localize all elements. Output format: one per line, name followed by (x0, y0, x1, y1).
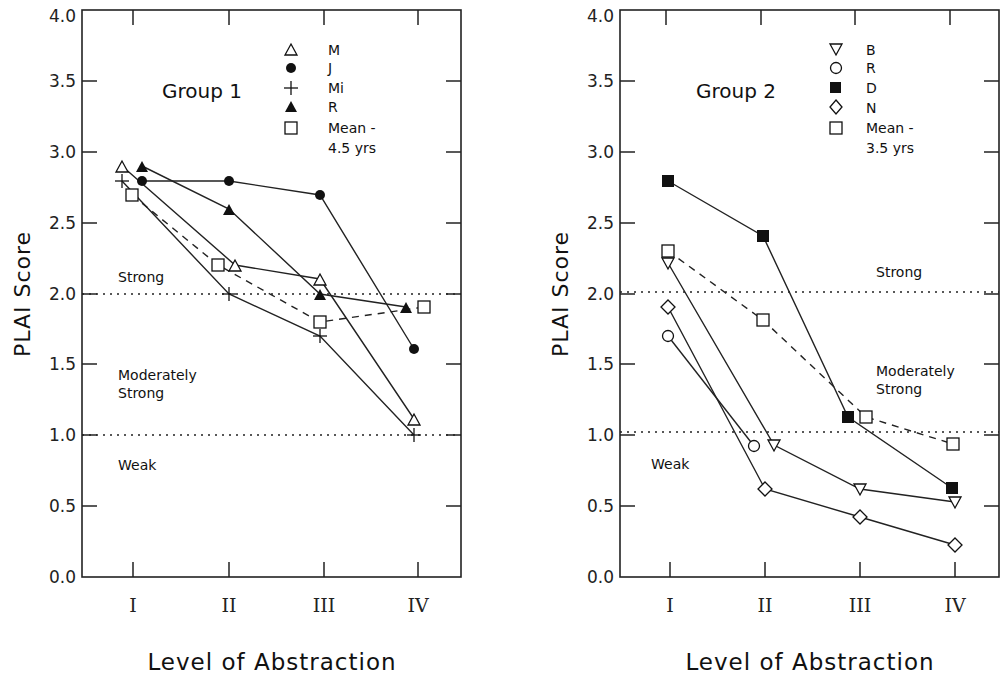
legend-triangle-down-open-icon (830, 44, 842, 55)
series-D-line (668, 181, 952, 488)
svg-text:III: III (313, 594, 336, 616)
y-tick-labels: 0.0 0.5 1.0 1.5 2.0 2.5 3.0 3.5 4.0 (49, 6, 76, 587)
legend-triangle-filled-icon (285, 101, 297, 112)
svg-text:D: D (866, 80, 877, 96)
svg-text:0.5: 0.5 (587, 496, 614, 516)
svg-text:I: I (666, 594, 674, 616)
svg-text:Mi: Mi (328, 80, 344, 96)
svg-text:J: J (327, 60, 332, 76)
y-axis-title: PLAI Score (548, 231, 573, 357)
svg-text:B: B (866, 42, 876, 58)
series-J-line (142, 181, 414, 349)
series-lines (122, 166, 424, 435)
svg-text:3.5 yrs: 3.5 yrs (866, 140, 914, 156)
svg-text:4.0: 4.0 (49, 6, 76, 26)
svg-text:1.5: 1.5 (49, 354, 76, 374)
series-R-line (668, 336, 754, 446)
legend-diamond-open-icon (830, 100, 842, 114)
region-label-strong: Strong (876, 264, 922, 280)
svg-text:R: R (328, 99, 338, 115)
svg-text:1.0: 1.0 (587, 425, 614, 445)
region-label-weak: Weak (651, 456, 690, 472)
region-label-moderate-2: Strong (876, 381, 922, 397)
x-tick-labels: I II III IV (129, 594, 429, 616)
legend-square-open-icon (830, 122, 842, 134)
svg-text:4.5 yrs: 4.5 yrs (328, 140, 376, 156)
x-axis-title: Level of Abstraction (685, 649, 934, 675)
legend: M J Mi R Mean - 4.5 yrs (284, 42, 376, 156)
plot-frame (620, 10, 999, 577)
svg-text:M: M (328, 42, 340, 58)
series-Mi-line (122, 181, 414, 435)
x-tick-labels: I II III IV (666, 594, 966, 616)
legend-plus-icon (284, 81, 298, 95)
series-R-line (142, 166, 406, 307)
region-label-moderate: Moderately (118, 367, 197, 383)
legend-triangle-open-icon (285, 44, 297, 55)
marker-J (137, 176, 419, 354)
legend: B R D N Mean - 3.5 yrs (830, 42, 914, 156)
svg-text:2.0: 2.0 (49, 284, 76, 304)
region-label-weak: Weak (118, 457, 157, 473)
figure: 0.0 0.5 1.0 1.5 2.0 2.5 3.0 3.5 4.0 I II… (0, 0, 1004, 682)
svg-text:2.5: 2.5 (49, 213, 76, 233)
svg-text:2.5: 2.5 (587, 213, 614, 233)
panel-title: Group 2 (696, 79, 776, 103)
svg-text:3.0: 3.0 (587, 142, 614, 162)
svg-text:II: II (221, 594, 236, 616)
svg-text:3.0: 3.0 (49, 142, 76, 162)
legend-circle-filled-icon (286, 63, 296, 73)
panel-title: Group 1 (162, 79, 242, 103)
svg-text:R: R (866, 60, 876, 76)
panel-group-2: 0.0 0.5 1.0 1.5 2.0 2.5 3.0 3.5 4.0 I II… (548, 6, 999, 675)
svg-text:0.0: 0.0 (587, 567, 614, 587)
legend-square-open-icon (285, 122, 297, 134)
panel-group-1: 0.0 0.5 1.0 1.5 2.0 2.5 3.0 3.5 4.0 I II… (10, 6, 461, 675)
svg-text:2.0: 2.0 (587, 284, 614, 304)
svg-text:0.5: 0.5 (49, 496, 76, 516)
svg-text:N: N (866, 100, 876, 116)
marker-Mi (115, 174, 421, 442)
svg-text:3.5: 3.5 (49, 71, 76, 91)
svg-text:IV: IV (407, 594, 429, 616)
region-label-moderate-2: Strong (118, 385, 164, 401)
svg-text:1.0: 1.0 (49, 425, 76, 445)
svg-text:0.0: 0.0 (49, 567, 76, 587)
region-label-moderate: Moderately (876, 363, 955, 379)
y-axis-title: PLAI Score (10, 231, 35, 357)
series-N-line (668, 307, 955, 545)
svg-text:4.0: 4.0 (587, 6, 614, 26)
svg-text:Mean -: Mean - (328, 120, 376, 136)
svg-text:II: II (757, 594, 772, 616)
legend-circle-open-icon (831, 63, 842, 74)
svg-text:IV: IV (944, 594, 966, 616)
svg-text:3.5: 3.5 (587, 71, 614, 91)
x-axis-title: Level of Abstraction (147, 649, 396, 675)
svg-text:1.5: 1.5 (587, 354, 614, 374)
y-tick-labels: 0.0 0.5 1.0 1.5 2.0 2.5 3.0 3.5 4.0 (587, 6, 614, 587)
svg-text:Mean -: Mean - (866, 120, 914, 136)
svg-text:I: I (129, 594, 137, 616)
region-label-strong: Strong (118, 269, 164, 285)
legend-square-filled-icon (830, 82, 841, 93)
y-ticks (620, 81, 999, 506)
svg-text:III: III (849, 594, 872, 616)
